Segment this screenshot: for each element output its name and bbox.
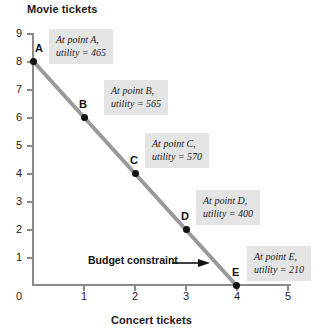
callout-e-line2: utility = 210 — [254, 263, 304, 276]
data-point-a — [30, 58, 37, 65]
callout-d-line2: utility = 400 — [203, 207, 253, 220]
callout-c-line1: At point C, — [152, 137, 202, 150]
callout-b-line2: utility = 565 — [111, 97, 161, 110]
data-point-label-d: D — [181, 210, 189, 222]
data-point-label-e: E — [232, 266, 239, 278]
callout-point-c: At point C, utility = 570 — [145, 133, 209, 168]
callout-b-line1: At point B, — [111, 84, 161, 97]
callout-point-e: At point E, utility = 210 — [247, 246, 311, 281]
callout-a-line1: At point A, — [56, 33, 106, 46]
callout-point-b: At point B, utility = 565 — [104, 80, 168, 115]
data-point-label-a: A — [35, 42, 43, 54]
callout-a-line2: utility = 465 — [56, 46, 106, 59]
chart-figure: Movie tickets Concert tickets 9 8 7 6 5 … — [0, 0, 325, 336]
data-point-e — [233, 282, 240, 289]
callout-point-d: At point D, utility = 400 — [196, 190, 260, 225]
arrow-right-icon — [172, 258, 212, 268]
callout-c-line2: utility = 570 — [152, 150, 202, 163]
callout-point-a: At point A, utility = 465 — [49, 29, 113, 64]
data-point-b — [81, 114, 88, 121]
callout-d-line1: At point D, — [203, 194, 253, 207]
budget-constraint-annotation: Budget constraint — [88, 254, 178, 266]
data-point-label-c: C — [130, 154, 138, 166]
data-point-d — [183, 226, 190, 233]
callout-e-line1: At point E, — [254, 250, 304, 263]
data-point-c — [132, 170, 139, 177]
data-point-label-b: B — [79, 98, 87, 110]
